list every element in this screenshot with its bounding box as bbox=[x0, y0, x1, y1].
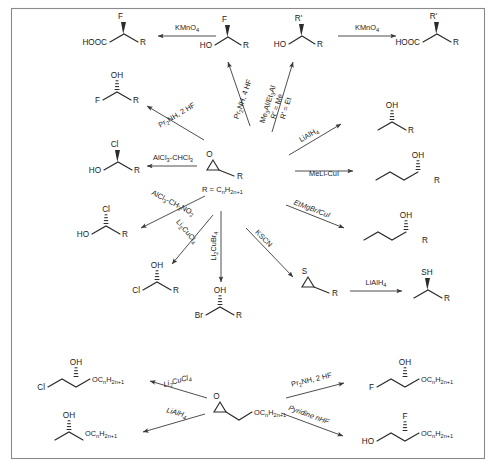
atom-label-Cl: Cl bbox=[111, 140, 119, 149]
product-fluoro-alcohol: HO F R bbox=[200, 15, 249, 50]
atom-label-R: R bbox=[453, 38, 459, 47]
reagent-kmno4-right: KMnO4 bbox=[355, 23, 379, 33]
atom-label-F: F bbox=[95, 96, 100, 105]
atom-label-R-prime: R' bbox=[295, 14, 303, 23]
atom-label-R-prime: R' bbox=[430, 12, 438, 21]
product-chloro-alkoxy-propanol: Cl OH OCnH2n+1 bbox=[37, 358, 124, 392]
product-fluoro-propanol-ether: HO F OCnH2n+1 bbox=[362, 412, 453, 446]
atom-label-R: R bbox=[140, 38, 146, 47]
atom-label-Cl: Cl bbox=[37, 383, 45, 392]
reagent-alcl3-chcl3: AlCl3-CHCl3 bbox=[153, 153, 193, 163]
atom-label-O: O bbox=[213, 392, 219, 401]
atom-label-SH: SH bbox=[421, 268, 432, 277]
reagent-li2cucl4: Li2CuCl4 bbox=[174, 218, 200, 246]
product-alkyl-acid: HOOC R' R bbox=[395, 12, 459, 47]
product-fluoro-2-alkanol: F OH R bbox=[95, 71, 139, 105]
atom-label-OH: OH bbox=[70, 358, 82, 367]
product-chloro-1-alkanol-2: HO Cl R bbox=[77, 205, 128, 239]
hash-wedge-OH bbox=[155, 271, 160, 280]
product-2-alkanol: OH R bbox=[378, 101, 414, 135]
center-glycidyl-ether: O OCnH2n+1 bbox=[213, 392, 286, 421]
atom-label-O: O bbox=[206, 150, 212, 159]
arrow-kmno4-left: KMnO4 bbox=[158, 23, 216, 36]
hash-wedge-Cl bbox=[104, 215, 109, 224]
atom-label-R: R bbox=[134, 166, 140, 175]
atom-label-HOOC: HOOC bbox=[395, 38, 420, 47]
hash-wedge-OH bbox=[218, 296, 223, 305]
hash-wedge-OH bbox=[74, 368, 79, 377]
arrow-li2cubr4: Li2CuBr4 bbox=[209, 211, 221, 282]
atom-label-F: F bbox=[222, 15, 227, 24]
arrow-bottom-li2cucl4: Li2CuCl4 bbox=[150, 372, 207, 398]
atom-label-HOOC: HOOC bbox=[82, 38, 107, 47]
product-alkyl-alcohol: HO R' R bbox=[274, 14, 323, 49]
atom-label-R: R bbox=[422, 236, 428, 245]
center-epoxide-structure: O R bbox=[206, 150, 243, 181]
product-thiirane: S R bbox=[302, 267, 338, 298]
reagent-alcl3-ch3no2: AlCl3-CH3NO2 bbox=[150, 188, 197, 218]
atom-label-HO: HO bbox=[77, 230, 89, 239]
ether-group-label: OCnH2n+1 bbox=[85, 429, 117, 439]
reagent-lialh4-thiol: LiAlH4 bbox=[366, 278, 387, 288]
product-ethyl-alkanol: OH R bbox=[376, 151, 440, 185]
product-alkoxy-propanol: OH OCnH2n+1 bbox=[55, 411, 117, 440]
product-propyl-alkanol: OH R bbox=[364, 211, 428, 245]
atom-label-OH: OH bbox=[386, 101, 398, 110]
arrow-meli-cui: MeLi-CuI bbox=[295, 169, 353, 178]
product-fluoro-alkoxy-propanol: F OH OCnH2n+1 bbox=[369, 358, 453, 392]
ether-group-label: OCnH2n+1 bbox=[421, 429, 453, 439]
ether-group-label: OCnH2n+1 bbox=[421, 375, 453, 385]
reagent-bottom-pr2nh-2hf: Pr2NH, 2 HF bbox=[290, 370, 333, 389]
atom-label-R: R bbox=[317, 40, 323, 49]
product-bromo-2-alkanol: Br OH R bbox=[195, 286, 242, 320]
atom-label-OH: OH bbox=[399, 358, 411, 367]
atom-label-OH: OH bbox=[400, 211, 412, 220]
atom-label-R: R bbox=[122, 230, 128, 239]
product-chloro-1-alkanol: HO Cl R bbox=[89, 140, 140, 175]
product-fluoro-acid: HOOC F R bbox=[82, 12, 146, 47]
hash-wedge-OH bbox=[403, 368, 408, 377]
reagent-bottom-pyridine-nhf: Pyridine nHF bbox=[287, 403, 331, 426]
ether-group-label: OCnH2n+1 bbox=[92, 375, 124, 385]
atom-label-R: R bbox=[243, 41, 249, 50]
atom-label-R: R bbox=[237, 172, 243, 181]
atom-label-Cl: Cl bbox=[132, 286, 140, 295]
atom-label-S: S bbox=[302, 267, 308, 276]
hash-wedge-OH bbox=[67, 421, 72, 430]
arrow-alcl3-chcl3: AlCl3-CHCl3 bbox=[147, 153, 197, 166]
reaction-scheme-figure: O R R = CnH2n+1 HOOC F R KMnO4 HO F R Pr… bbox=[0, 0, 497, 467]
arrow-pr2nh-2hf: Pr2NH, 2 HF bbox=[147, 100, 204, 140]
arrow-kscn: KSCN bbox=[246, 228, 293, 277]
arrow-bottom-pr2nh-2hf: Pr2NH, 2 HF bbox=[286, 370, 344, 398]
arrow-kmno4-right: KMnO4 bbox=[338, 23, 396, 36]
reagent-kmno4-left: KMnO4 bbox=[175, 23, 199, 33]
reagent-meli-cui: MeLi-CuI bbox=[309, 169, 339, 178]
atom-label-R: R bbox=[133, 96, 139, 105]
product-thiol: SH R bbox=[414, 268, 450, 303]
atom-label-OH: OH bbox=[111, 71, 123, 80]
atom-label-HO: HO bbox=[274, 40, 286, 49]
reagent-lialh4-alcohol: LiAlH4 bbox=[297, 126, 320, 145]
atom-label-R: R bbox=[332, 289, 338, 298]
atom-label-OH: OH bbox=[412, 151, 424, 160]
reagent-bottom-lialh4: LiAlH4 bbox=[165, 405, 188, 420]
product-chloro-2-alkanol: Cl OH R bbox=[132, 261, 179, 295]
atom-label-HO: HO bbox=[200, 41, 212, 50]
atom-label-F: F bbox=[118, 12, 123, 21]
arrow-bottom-pyridine-nhf: Pyridine nHF bbox=[281, 403, 343, 436]
arrow-li2cucl4: Li2CuCl4 bbox=[172, 215, 213, 264]
arrow-etmgbr-cui: EtMgBr/CuI bbox=[286, 198, 344, 228]
reagent-pr2nh-4hf: Pr2NH, 4 HF bbox=[232, 78, 255, 121]
atom-label-OH: OH bbox=[151, 261, 163, 270]
arrow-lialh4-alcohol: LiAlH4 bbox=[289, 124, 341, 155]
atom-label-OH: OH bbox=[63, 411, 75, 420]
reagent-kscn: KSCN bbox=[253, 228, 274, 249]
atom-label-R: R bbox=[173, 286, 179, 295]
arrow-me3al: Me3Al/Et3Al R' = Me R' = Et bbox=[258, 62, 294, 132]
atom-label-Br: Br bbox=[195, 311, 203, 320]
atom-label-Cl: Cl bbox=[102, 205, 110, 214]
reagent-bottom-li2cucl4: Li2CuCl4 bbox=[162, 372, 192, 389]
hash-wedge-OH bbox=[404, 221, 409, 230]
atom-label-HO: HO bbox=[89, 166, 101, 175]
atom-label-HO: HO bbox=[362, 437, 374, 446]
